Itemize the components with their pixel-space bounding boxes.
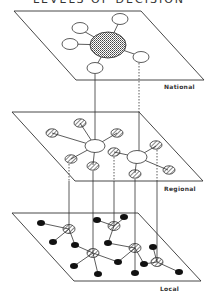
regional-local-links <box>69 150 157 262</box>
regional-node <box>163 166 175 174</box>
multilevel-network-diagram <box>0 0 218 301</box>
local-node <box>93 217 101 223</box>
local-hub-node <box>87 249 99 258</box>
local-node <box>131 270 139 276</box>
local-node <box>49 239 57 245</box>
national-layer <box>14 11 204 80</box>
local-layer <box>12 213 201 281</box>
national-node <box>62 39 78 50</box>
national-node <box>87 63 103 74</box>
local-node <box>94 271 102 277</box>
local-node <box>140 261 148 267</box>
regional-node <box>111 129 123 137</box>
national-node <box>112 14 128 25</box>
regional-hub-node <box>127 151 147 164</box>
local-hub-node <box>63 225 75 234</box>
local-node <box>71 242 79 248</box>
local-node <box>149 244 157 250</box>
regional-node <box>46 129 58 137</box>
local-node <box>120 214 128 220</box>
regional-node <box>108 148 120 156</box>
local-node <box>104 240 112 246</box>
layer-label-national: National <box>164 83 195 90</box>
regional-node <box>87 162 99 170</box>
regional-node <box>65 155 77 163</box>
local-node <box>70 263 78 269</box>
national-node <box>133 52 149 63</box>
regional-layer <box>12 112 203 181</box>
local-hub-node <box>108 222 120 231</box>
local-node <box>175 269 183 275</box>
regional-hub-node <box>85 140 105 153</box>
local-node <box>114 259 122 265</box>
regional-node <box>129 170 141 178</box>
national-node <box>72 23 88 34</box>
national-hub-node <box>90 32 126 58</box>
local-hub-node <box>129 244 141 253</box>
local-hub-node <box>151 258 163 267</box>
regional-node <box>150 141 162 149</box>
regional-node <box>74 119 86 127</box>
local-node <box>37 220 45 226</box>
layer-label-regional: Regional <box>164 185 196 192</box>
layer-label-local: Local <box>160 285 179 292</box>
